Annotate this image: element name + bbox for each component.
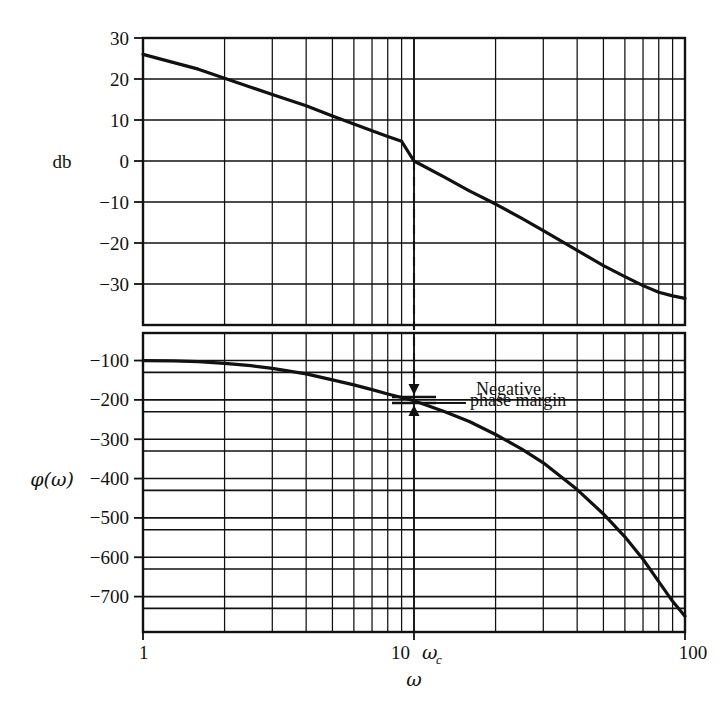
- tick-label-phase: −700: [90, 586, 129, 607]
- tick-label-magnitude: 20: [110, 69, 129, 90]
- tick-label-magnitude: 0: [120, 151, 130, 172]
- tick-label-phase: −100: [90, 350, 129, 371]
- tick-label-magnitude: −20: [99, 233, 129, 254]
- tick-label-magnitude: 30: [110, 28, 129, 49]
- bode-plot-svg: Negativephase margin 3020100−10−20−30db−…: [0, 0, 724, 707]
- phase-axis-title: φ(ω): [30, 468, 74, 490]
- tick-label-phase: −400: [90, 468, 129, 489]
- tick-label-x: 10: [391, 642, 410, 663]
- tick-label-x: 1: [139, 642, 149, 663]
- tick-label-x: 100: [679, 642, 708, 663]
- negative-phase-margin-label-line2: phase margin: [470, 390, 566, 410]
- tick-label-magnitude: −10: [99, 192, 129, 213]
- tick-label-phase: −600: [90, 547, 129, 568]
- grid-layer: [143, 38, 685, 632]
- crossover-omega-subscript: c: [436, 652, 442, 667]
- tick-label-phase: −200: [90, 389, 129, 410]
- tick-label-magnitude: −30: [99, 274, 129, 295]
- tick-label-phase: −500: [90, 507, 129, 528]
- tick-label-phase: −300: [90, 429, 129, 450]
- x-axis-title: ω: [406, 668, 422, 690]
- tick-label-magnitude: 10: [110, 110, 129, 131]
- magnitude-axis-title: db: [53, 151, 72, 172]
- bode-plot-figure: Negativephase margin 3020100−10−20−30db−…: [0, 0, 724, 707]
